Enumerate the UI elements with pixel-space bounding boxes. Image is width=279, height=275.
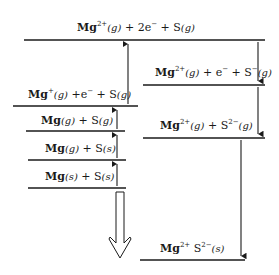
label-mg-g-s-s: Mg(g) + S(s) [45,143,116,155]
born-haber-diagram [0,0,279,275]
label-bottom: Mg2+ S2−(s) [160,243,225,255]
label-r2: Mg2+(g) + S2−(g) [160,120,253,132]
label-mg-s-s-s: Mg(s) + S(s) [45,171,115,183]
label-mg-g-s-g: Mg(g) + S(g) [41,115,113,127]
label-top: Mg2+(g) + 2e− + S(g) [77,22,195,34]
label-r1: Mg2+(g) + e− + S−(g) [155,67,272,79]
arrow-formation-hollow [109,192,131,258]
label-mg-plus: Mg+(g) +e− + S(g) [28,89,131,101]
